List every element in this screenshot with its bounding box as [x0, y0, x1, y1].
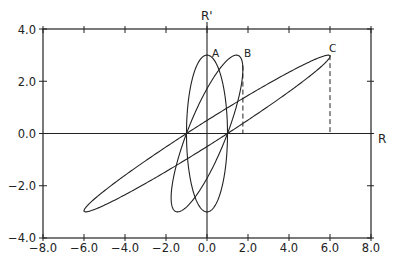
- x-tick-label: −2.0: [152, 241, 180, 255]
- phase-ellipse-chart: 4.0 2.0 0.0 −2.0 −4.0 −8.0 −6.0 −4.0 −2.…: [0, 0, 396, 268]
- y-tick-label: 0.0: [18, 127, 36, 141]
- y-axis-title: R': [201, 9, 213, 23]
- dashed-drop-lines: [243, 55, 330, 133]
- x-tick-label: 2.0: [239, 241, 257, 255]
- x-tick-label: 6.0: [321, 241, 339, 255]
- x-tick-label: −4.0: [111, 241, 139, 255]
- x-axis-title: R: [378, 132, 386, 146]
- tick-labels: 4.0 2.0 0.0 −2.0 −4.0 −8.0 −6.0 −4.0 −2.…: [8, 23, 380, 256]
- curve-label-c: C: [329, 42, 336, 54]
- y-tick-label: −2.0: [8, 179, 36, 193]
- x-tick-label: −8.0: [29, 241, 57, 255]
- curve-label-a: A: [212, 47, 220, 59]
- curve-label-b: B: [244, 47, 251, 59]
- x-tick-label: 4.0: [280, 241, 298, 255]
- y-tick-label: 4.0: [18, 23, 36, 37]
- x-tick-label: 8.0: [362, 241, 380, 255]
- x-tick-label: 0.0: [198, 241, 216, 255]
- y-tick-label: 2.0: [18, 75, 36, 89]
- x-tick-label: −6.0: [70, 241, 98, 255]
